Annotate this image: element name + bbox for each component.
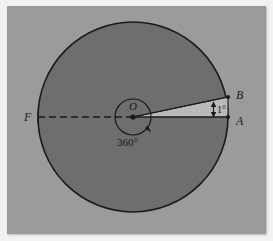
label-point-a: A — [235, 114, 244, 128]
label-point-f: F — [23, 110, 32, 124]
label-angle-one-degree: 1° — [217, 104, 226, 115]
point-b-dot — [226, 95, 230, 99]
center-point-dot — [130, 114, 135, 119]
point-a-dot — [226, 115, 230, 119]
label-center-o: O — [129, 100, 137, 112]
label-full-turn: 360° — [117, 136, 138, 148]
circle-degree-diagram: F A B O 360° 1° — [0, 0, 273, 241]
figure-container: F A B O 360° 1° — [0, 0, 273, 241]
label-point-b: B — [236, 88, 244, 102]
